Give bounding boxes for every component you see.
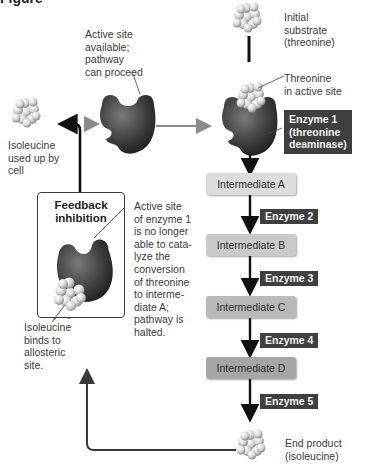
end-product-label: End product (isoleucine) bbox=[285, 437, 342, 462]
enzyme-4-label: Enzyme 4 bbox=[260, 333, 318, 348]
feedback-inhibition-box: Feedback inhibition bbox=[37, 192, 125, 318]
black-arrow-to-cell bbox=[62, 124, 80, 192]
enzyme-3-label: Enzyme 3 bbox=[260, 271, 318, 286]
intermediate-a-box: Intermediate A bbox=[206, 173, 296, 195]
initial-substrate-label: Initial substrate (threonine) bbox=[284, 11, 335, 49]
intermediate-b-box: Intermediate B bbox=[206, 234, 296, 256]
isoleucine-used-molecule bbox=[12, 98, 41, 128]
enzyme-2-label: Enzyme 2 bbox=[260, 209, 318, 224]
enzyme-1-label: Enzyme 1 (threonine deaminase) bbox=[284, 110, 352, 154]
active-site-available-label: Active site available; pathway can proce… bbox=[85, 28, 143, 78]
enzyme-5-label: Enzyme 5 bbox=[260, 394, 318, 409]
enzyme-active-available bbox=[100, 95, 155, 154]
initial-substrate-molecule bbox=[233, 3, 262, 33]
isoleucine-used-label: Isoleucine used up by cell bbox=[8, 139, 59, 177]
intermediate-d-box: Intermediate D bbox=[206, 357, 296, 379]
active-site-blocked-label: Active site of enzyme 1 is no longer abl… bbox=[134, 200, 192, 339]
threonine-in-active-site-label: Threonine in active site bbox=[284, 72, 342, 97]
feedback-inhibition-title: Feedback inhibition bbox=[38, 199, 124, 225]
isoleucine-binds-label: Isoleucine binds to allosteric site. bbox=[24, 321, 71, 371]
end-product-molecule bbox=[237, 430, 266, 460]
feedback-loop-arrow bbox=[87, 372, 236, 450]
leader-threonine bbox=[258, 76, 284, 88]
intermediate-c-box: Intermediate C bbox=[206, 296, 296, 318]
